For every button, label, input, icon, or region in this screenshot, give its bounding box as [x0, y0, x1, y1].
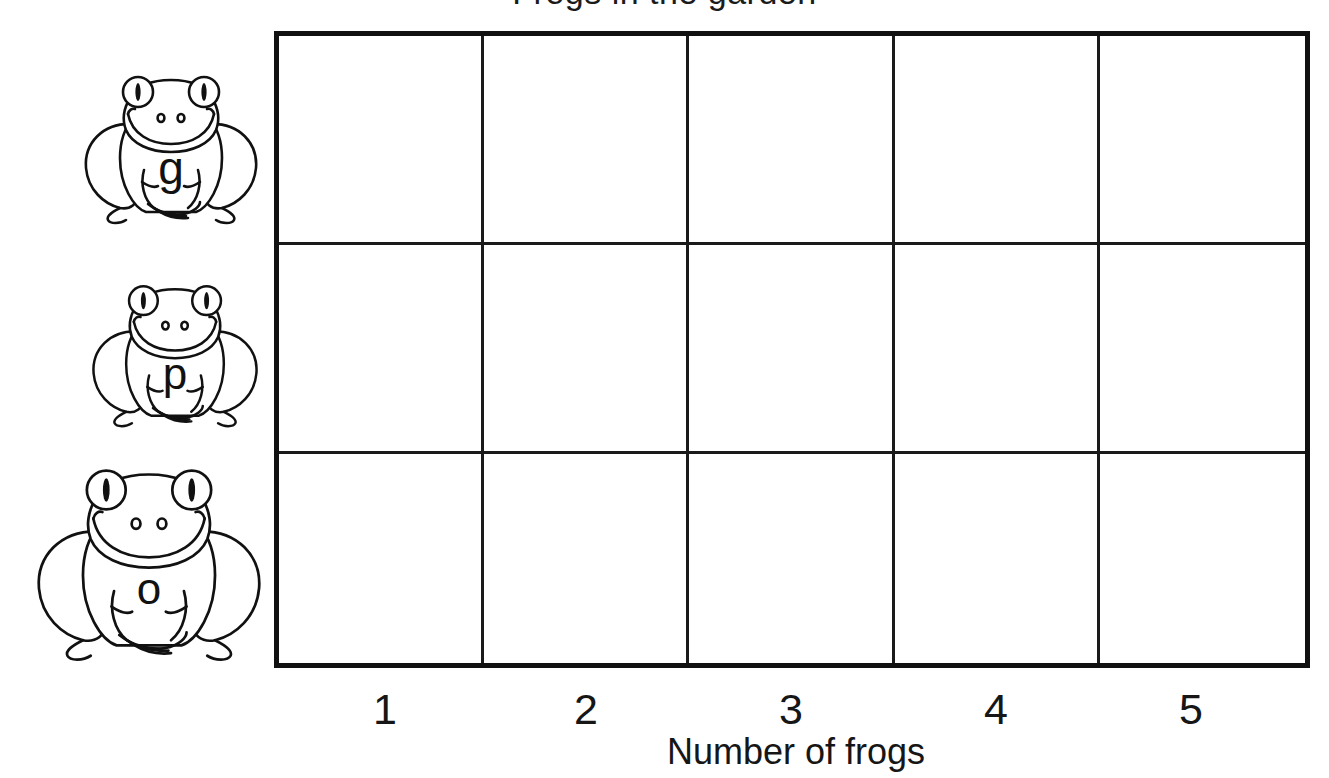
row-label-frog-p: p [84, 272, 266, 430]
x-axis-tick-1: 1 [345, 684, 425, 734]
x-axis-label: Number of frogs [516, 730, 1076, 774]
x-axis-tick-4: 4 [956, 684, 1036, 734]
grid-cell[interactable] [895, 245, 1100, 454]
frog-icon: p [84, 272, 266, 430]
frog-letter: p [163, 349, 188, 398]
page-title: Frogs in the garden [0, 0, 1329, 12]
grid-cell[interactable] [279, 36, 484, 245]
frog-letter: o [137, 564, 161, 613]
grid-cell[interactable] [484, 454, 689, 663]
grid-cell[interactable] [689, 454, 894, 663]
x-axis-tick-3: 3 [751, 684, 831, 734]
x-axis-tick-2: 2 [546, 684, 626, 734]
grid-cell[interactable] [484, 245, 689, 454]
frog-icon: g [76, 62, 266, 227]
plot-grid[interactable] [274, 31, 1310, 668]
grid-cell[interactable] [689, 36, 894, 245]
frog-icon: o [26, 450, 272, 666]
grid-cell[interactable] [279, 454, 484, 663]
grid-cell[interactable] [689, 245, 894, 454]
grid-cell[interactable] [1100, 454, 1305, 663]
worksheet-page: Frogs in the garden [0, 0, 1329, 778]
grid-cell[interactable] [895, 36, 1100, 245]
grid-cell[interactable] [1100, 36, 1305, 245]
x-axis-tick-5: 5 [1151, 684, 1231, 734]
row-label-frog-g: g [76, 62, 266, 227]
row-label-frog-o: o [26, 450, 272, 666]
grid-cell[interactable] [279, 245, 484, 454]
grid-cell[interactable] [1100, 245, 1305, 454]
grid-cell[interactable] [895, 454, 1100, 663]
frog-letter: g [158, 142, 184, 194]
grid-cell[interactable] [484, 36, 689, 245]
